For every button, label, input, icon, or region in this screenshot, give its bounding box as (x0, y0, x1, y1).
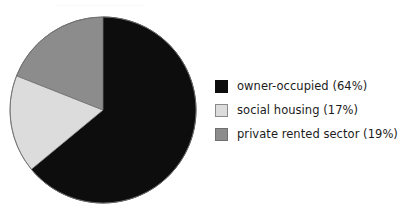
pie-chart-svg (8, 14, 200, 206)
pie-chart-plot-area (8, 14, 200, 206)
legend-swatch-social-housing-icon (215, 104, 228, 117)
legend-label-owner-occupied: owner-occupied (64%) (237, 80, 367, 93)
legend-label-private-rented-sector: private rented sector (19%) (237, 128, 398, 141)
pie-slice-group (10, 17, 196, 203)
legend-swatch-private-rented-sector-icon (215, 128, 228, 141)
legend-item-social-housing: social housing (17%) (215, 98, 390, 122)
legend-label-social-housing: social housing (17%) (237, 104, 358, 117)
legend-item-owner-occupied: owner-occupied (64%) (215, 74, 390, 98)
legend-swatch-owner-occupied-icon (215, 80, 228, 93)
cropped-page-text-bleed: ................................. (55, 0, 245, 8)
chart-legend: owner-occupied (64%) social housing (17%… (215, 74, 390, 146)
legend-item-private-rented-sector: private rented sector (19%) (215, 122, 390, 146)
